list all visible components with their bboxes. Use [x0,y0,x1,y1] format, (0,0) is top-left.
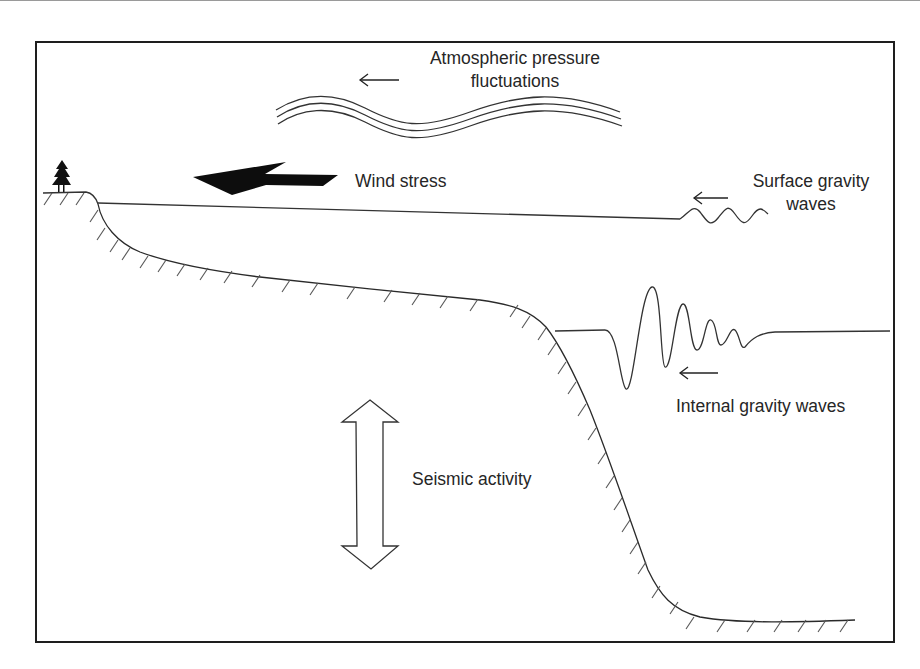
wind-stress-arrow-icon [193,162,338,195]
label-atmospheric-line2: fluctuations [410,70,620,93]
label-surface-line1: Surface gravity [736,170,886,193]
label-internal-gravity-waves: Internal gravity waves [676,395,845,418]
label-surface-gravity-waves: Surface gravity waves [736,170,886,216]
surface-wave-arrow-icon [694,192,728,204]
label-atmospheric-pressure: Atmospheric pressure fluctuations [410,47,620,93]
tree-icon [52,160,71,193]
label-wind-stress: Wind stress [355,170,446,193]
diagram-canvas [0,0,920,669]
label-surface-line2: waves [736,193,886,216]
diagram-frame [36,42,894,642]
label-seismic-activity: Seismic activity [412,468,532,491]
internal-wave-arrow-icon [680,367,718,379]
atmospheric-wave-lines [276,96,622,137]
internal-gravity-wave [555,287,890,389]
seismic-double-arrow-icon [342,400,398,569]
label-atmospheric-line1: Atmospheric pressure [410,47,620,70]
atmospheric-arrow-icon [360,74,399,86]
sea-surface-line [98,203,680,219]
